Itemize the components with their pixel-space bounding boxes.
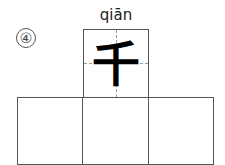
practice-box-2[interactable] — [82, 97, 148, 165]
pinyin-label: qiān — [83, 6, 149, 24]
model-character: 千 — [84, 32, 148, 96]
practice-row — [17, 97, 214, 165]
exercise-number: ④ — [16, 28, 36, 48]
practice-box-3[interactable] — [148, 97, 214, 165]
character-model-box: 千 — [83, 29, 149, 98]
practice-box-1[interactable] — [17, 97, 83, 165]
